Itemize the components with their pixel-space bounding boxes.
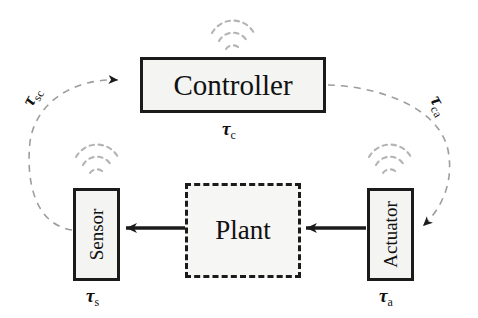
sensor-label: Sensor: [87, 209, 106, 261]
tau-subscript: a: [387, 295, 393, 309]
controller-block: Controller: [140, 57, 326, 113]
actuator-block: Actuator: [367, 188, 414, 281]
controller-label: Controller: [173, 71, 292, 100]
controller-delay-label: τc: [222, 119, 236, 141]
actuator-label: Actuator: [381, 201, 400, 267]
sensor-wireless-icon: [76, 145, 118, 173]
actuator-wireless-icon: [369, 145, 411, 173]
sensor-delay-label: τs: [86, 286, 99, 308]
diagram-canvas: Controller Plant Sensor Actuator τc τs τ…: [0, 0, 478, 318]
plant-block: Plant: [185, 183, 301, 278]
tau-subscript: s: [94, 295, 99, 309]
actuator-delay-label: τa: [379, 286, 393, 308]
tau-subscript: c: [230, 128, 236, 142]
plant-label: Plant: [215, 217, 271, 244]
controller-wireless-icon: [212, 21, 254, 49]
sensor-block: Sensor: [73, 188, 120, 281]
